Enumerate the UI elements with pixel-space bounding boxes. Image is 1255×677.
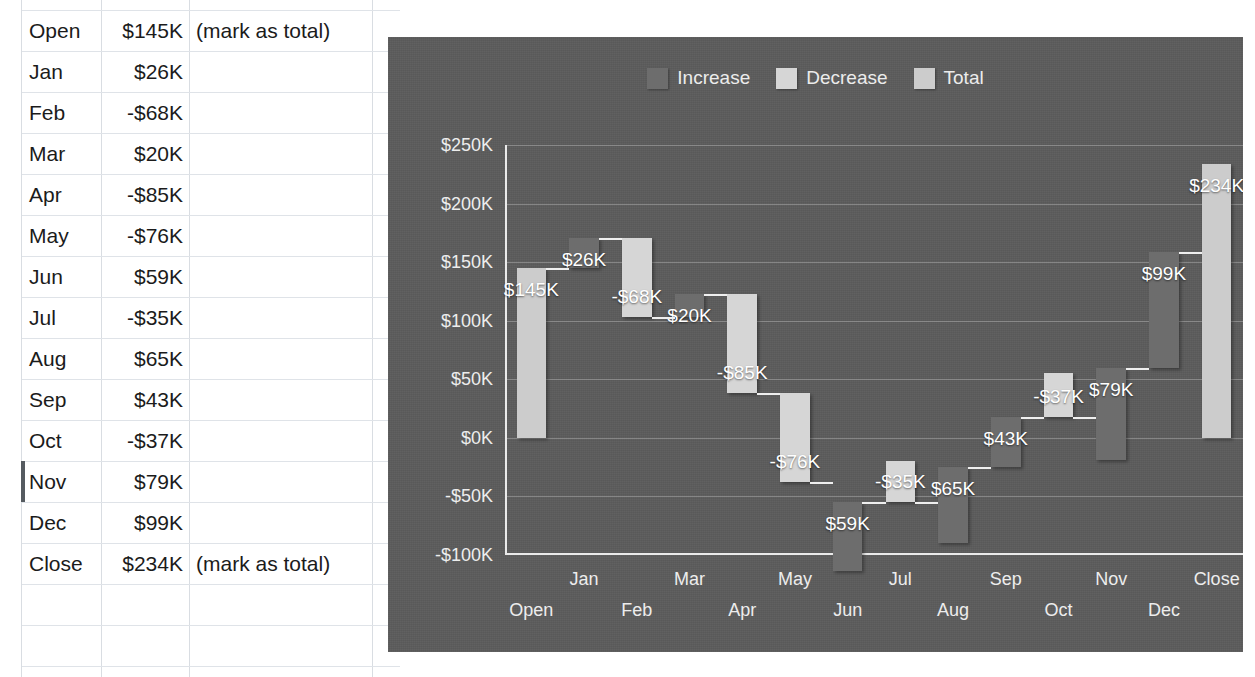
cell-label[interactable]: Oct (22, 420, 102, 461)
cell-note[interactable] (190, 338, 196, 379)
table-row[interactable]: Sep$43K (22, 379, 400, 420)
table-row[interactable]: Aug$65K (22, 338, 400, 379)
bar-close[interactable] (1202, 164, 1232, 438)
cell-label[interactable]: Mar (22, 133, 102, 174)
cell-label[interactable]: Jun (22, 256, 102, 297)
legend-item-decrease[interactable]: Decrease (776, 67, 887, 89)
waterfall-chart[interactable]: IncreaseDecreaseTotal $250K$200K$150K$10… (388, 37, 1243, 652)
cell-label[interactable]: Aug (22, 338, 102, 379)
cell-note[interactable] (190, 625, 196, 666)
cell-label[interactable]: May (22, 215, 102, 256)
cell-note[interactable] (190, 215, 196, 256)
cell-note[interactable] (190, 297, 196, 338)
legend-swatch-icon (776, 68, 797, 89)
cell-note[interactable]: (mark as total) (190, 10, 330, 51)
y-tick-label: $250K (441, 135, 493, 156)
cell-note[interactable] (190, 51, 196, 92)
cell-label[interactable]: Open (22, 10, 102, 51)
bar-data-label: $59K (825, 513, 869, 535)
table-row[interactable]: Close$234K(mark as total) (22, 543, 400, 584)
cell-note[interactable] (190, 420, 196, 461)
table-row[interactable]: Jul-$35K (22, 297, 400, 338)
gridline (507, 438, 1243, 439)
cell-value[interactable]: $20K (102, 133, 190, 174)
table-row[interactable]: Mar$20K (22, 133, 400, 174)
x-axis-tick-labels: OpenJanFebMarAprMayJunJulAugSepOctNovDec… (505, 561, 1243, 641)
cell-note[interactable]: (mark as total) (190, 543, 330, 584)
cell-note[interactable] (190, 502, 196, 543)
waterfall-connector (968, 467, 991, 469)
cell-value[interactable]: $99K (102, 502, 190, 543)
selected-row-marker (21, 461, 25, 502)
spreadsheet-rows[interactable]: Open$145K(mark as total)Jan$26KFeb-$68KM… (22, 10, 400, 666)
cell-label[interactable]: Jul (22, 297, 102, 338)
chart-legend[interactable]: IncreaseDecreaseTotal (388, 67, 1243, 89)
y-axis-line (505, 145, 507, 555)
cell-label[interactable]: Jan (22, 51, 102, 92)
waterfall-connector (1126, 368, 1149, 370)
cell-note[interactable] (190, 174, 196, 215)
waterfall-connector (546, 268, 569, 270)
table-row[interactable]: Apr-$85K (22, 174, 400, 215)
legend-item-total[interactable]: Total (914, 67, 984, 89)
cell-label[interactable]: Sep (22, 379, 102, 420)
cell-label[interactable]: Apr (22, 174, 102, 215)
waterfall-connector (810, 482, 833, 484)
cell-value[interactable]: $79K (102, 461, 190, 502)
waterfall-connector (757, 393, 780, 395)
y-tick-label: $150K (441, 252, 493, 273)
cell-value[interactable]: $234K (102, 543, 190, 584)
y-tick-label: $0K (461, 427, 493, 448)
cell-value[interactable]: -$68K (102, 92, 190, 133)
table-row[interactable] (22, 625, 400, 666)
cell-note[interactable] (190, 256, 196, 297)
cell-value[interactable]: -$85K (102, 174, 190, 215)
cell-value[interactable]: -$76K (102, 215, 190, 256)
cell-label[interactable]: Close (22, 543, 102, 584)
table-row[interactable]: Jan$26K (22, 51, 400, 92)
gridline (507, 204, 1243, 205)
cell-note[interactable] (190, 461, 196, 502)
cell-value[interactable] (102, 625, 190, 666)
cell-value[interactable]: -$35K (102, 297, 190, 338)
legend-label: Total (944, 67, 984, 89)
legend-label: Increase (677, 67, 750, 89)
table-row[interactable]: Jun$59K (22, 256, 400, 297)
cell-note[interactable] (190, 133, 196, 174)
cell-note[interactable] (190, 92, 196, 133)
cell-value[interactable]: -$37K (102, 420, 190, 461)
grid-row-divider (22, 666, 400, 667)
cell-note[interactable] (190, 584, 196, 625)
table-row[interactable]: Feb-$68K (22, 92, 400, 133)
cell-label[interactable] (22, 625, 102, 666)
table-row[interactable]: Oct-$37K (22, 420, 400, 461)
y-tick-label: -$50K (445, 486, 493, 507)
gridline (507, 496, 1243, 497)
cell-note[interactable] (190, 379, 196, 420)
cell-value[interactable] (102, 584, 190, 625)
table-row[interactable]: Dec$99K (22, 502, 400, 543)
x-tick-label: Mar (674, 569, 705, 590)
cell-label[interactable] (22, 584, 102, 625)
x-tick-label: Feb (621, 600, 652, 621)
x-tick-label: Sep (990, 569, 1022, 590)
x-tick-label: Aug (937, 600, 969, 621)
cell-label[interactable]: Nov (22, 461, 102, 502)
cell-label[interactable]: Dec (22, 502, 102, 543)
table-row[interactable] (22, 584, 400, 625)
x-tick-label: Oct (1044, 600, 1072, 621)
cell-value[interactable]: $65K (102, 338, 190, 379)
gridline (507, 321, 1243, 322)
cell-value[interactable]: $43K (102, 379, 190, 420)
spreadsheet-pane[interactable]: Open$145K(mark as total)Jan$26KFeb-$68KM… (0, 0, 400, 677)
cell-value[interactable]: $145K (102, 10, 190, 51)
waterfall-connector (599, 238, 622, 240)
cell-value[interactable]: $59K (102, 256, 190, 297)
legend-item-increase[interactable]: Increase (647, 67, 750, 89)
cell-value[interactable]: $26K (102, 51, 190, 92)
table-row[interactable]: Nov$79K (22, 461, 400, 502)
cell-label[interactable]: Feb (22, 92, 102, 133)
table-row[interactable]: Open$145K(mark as total) (22, 10, 400, 51)
table-row[interactable]: May-$76K (22, 215, 400, 256)
waterfall-connector (1073, 417, 1096, 419)
